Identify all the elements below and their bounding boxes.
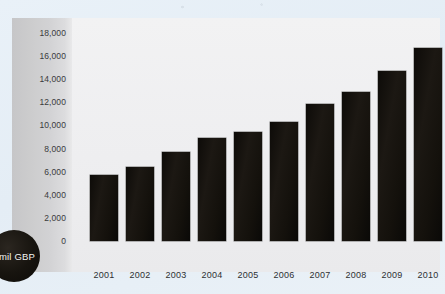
bar-2006 (270, 122, 298, 241)
unit-badge-label: mil GBP (0, 251, 35, 262)
bar-2005 (234, 132, 262, 241)
x-axis-tick-2005: 2005 (228, 270, 268, 280)
plot-area (72, 18, 440, 272)
y-axis-tick-10000: 10,000 (4, 120, 66, 130)
page-background: 02,0004,0006,0008,00010,00012,00014,0001… (0, 0, 445, 294)
x-axis-tick-2006: 2006 (264, 270, 304, 280)
bar-2001 (90, 175, 118, 241)
bar-2009 (378, 71, 406, 241)
x-axis-tick-2002: 2002 (120, 270, 160, 280)
y-axis-tick-8000: 8,000 (4, 144, 66, 154)
bar-2007 (306, 104, 334, 242)
y-axis-tick-14000: 14,000 (4, 74, 66, 84)
x-axis-tick-2010: 2010 (408, 270, 445, 280)
y-axis-tick-2000: 2,000 (4, 213, 66, 223)
y-axis-tick-16000: 16,000 (4, 51, 66, 61)
bar-2004 (198, 138, 226, 241)
y-axis-tick-6000: 6,000 (4, 167, 66, 177)
x-axis-tick-2007: 2007 (300, 270, 340, 280)
x-axis-tick-2004: 2004 (192, 270, 232, 280)
bar-2008 (342, 92, 370, 241)
y-axis-tick-12000: 12,000 (4, 97, 66, 107)
x-axis-tick-2003: 2003 (156, 270, 196, 280)
bar-2002 (126, 167, 154, 241)
bar-2010 (414, 48, 442, 241)
x-axis-tick-2009: 2009 (372, 270, 412, 280)
x-axis-tick-2008: 2008 (336, 270, 376, 280)
chart-panel: 02,0004,0006,0008,00010,00012,00014,0001… (12, 18, 440, 272)
x-axis-tick-2001: 2001 (84, 270, 124, 280)
y-axis-tick-4000: 4,000 (4, 190, 66, 200)
bar-2003 (162, 152, 190, 241)
y-axis-tick-18000: 18,000 (4, 28, 66, 38)
scan-artifact (150, 1, 330, 13)
